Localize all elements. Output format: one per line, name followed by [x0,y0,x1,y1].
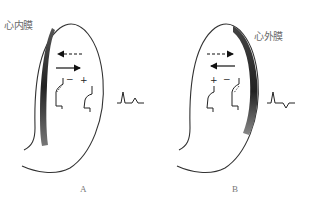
sign-outer: − [223,74,230,84]
action-potential-outer [232,78,239,110]
panel-letter-b: B [232,184,238,194]
panel-b: 心外膜 + − B [155,0,310,206]
action-potential-inner [207,86,214,112]
epicardium-label: 心外膜 [254,28,283,43]
sign-inner: − [66,74,73,84]
sign-inner: + [210,75,217,85]
endocardium-shading [40,28,55,146]
ventricle-outline [22,24,103,172]
heart-diagram-b [155,0,310,206]
action-potential-outer [84,86,92,112]
ecg-waveform-a [117,92,144,103]
action-potential-inner [56,78,63,109]
panel-a: 心内膜 − + A [0,0,155,206]
sign-outer: + [80,75,87,85]
endocardium-label: 心内膜 [4,17,33,32]
ecg-waveform-b [267,92,295,108]
panel-letter-a: A [80,184,87,194]
